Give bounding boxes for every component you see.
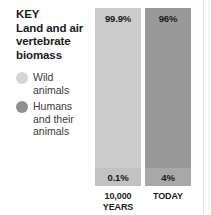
- legend-label-wild-animals: Wild animals: [33, 71, 90, 96]
- bar-today: 96% 4%: [145, 8, 191, 186]
- bar-segment-wild-animals-past: 99.9%: [95, 8, 141, 168]
- bar-segment-humans-animals-today: 96%: [145, 8, 191, 168]
- axis-label-today-line-1: TODAY: [145, 191, 191, 202]
- humans-animals-swatch-icon: [16, 101, 28, 113]
- axis-label-today: TODAY: [145, 191, 191, 202]
- bar-segment-wild-animals-today: 4%: [145, 168, 191, 186]
- legend-item-wild-animals: Wild animals: [16, 71, 90, 96]
- biomass-chart-figure: KEY Land and air vertebrate biomass Wild…: [0, 0, 211, 214]
- key-heading: KEY Land and air vertebrate biomass: [16, 8, 90, 62]
- bar-segment-humans-animals-past: 0.1%: [95, 168, 141, 186]
- bar-value-label-99-9: 99.9%: [105, 13, 131, 24]
- key-heading-line-4: biomass: [16, 49, 90, 63]
- axis-label-10000-years-ago: 10,000 YEARS AGO: [95, 191, 141, 214]
- bar-value-label-96: 96%: [159, 13, 177, 24]
- bar-column-10000-years-ago: 99.9% 0.1% 10,000 YEARS AGO: [95, 8, 141, 214]
- legend-label-humans-animals: Humans and their animals: [33, 100, 90, 138]
- bar-value-label-0-1: 0.1%: [108, 172, 129, 183]
- bar-column-today: 96% 4% TODAY: [145, 8, 191, 202]
- bar-value-label-4: 4%: [161, 172, 174, 183]
- axis-label-line-1: 10,000: [95, 191, 141, 202]
- key-heading-line-1: KEY: [16, 8, 90, 22]
- key-heading-line-2: Land and air: [16, 22, 90, 36]
- right-margin-rule: [203, 0, 204, 214]
- key-panel: KEY Land and air vertebrate biomass Wild…: [16, 8, 90, 142]
- right-margin-rule-secondary: [208, 0, 209, 214]
- legend-item-humans-animals: Humans and their animals: [16, 100, 90, 138]
- stacked-bar-chart: 99.9% 0.1% 10,000 YEARS AGO 96% 4%: [88, 8, 198, 208]
- bar-10000-years-ago: 99.9% 0.1%: [95, 8, 141, 186]
- wild-animals-swatch-icon: [16, 72, 28, 84]
- key-heading-line-3: vertebrate: [16, 35, 90, 49]
- legend: Wild animals Humans and their animals: [16, 71, 90, 138]
- axis-label-line-2: YEARS AGO: [95, 202, 141, 215]
